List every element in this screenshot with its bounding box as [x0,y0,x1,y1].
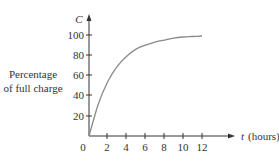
y-axis-arrow-icon [87,14,92,21]
y-tick-20: 20 [73,110,85,122]
x-tick-8: 8 [161,141,167,153]
y-tick-80: 80 [73,49,85,61]
y-tick-60: 60 [73,69,85,81]
charge-curve [89,36,202,136]
x-tick-6: 6 [142,141,148,153]
x-tick-4: 4 [123,141,129,153]
x-tick-2: 2 [104,141,110,153]
x-axis-var: t [241,130,245,142]
x-axis-unit: (hours) [248,130,279,143]
x-axis-arrow-icon [228,134,235,139]
y-axis-var: C [75,13,83,25]
x-tick-10: 10 [178,141,190,153]
chart: 100 80 60 40 20 0 2 4 6 8 10 12 C t (hou… [0,0,279,163]
x-tick-12: 12 [197,141,208,153]
origin-label: 0 [80,141,86,153]
y-tick-40: 40 [73,89,85,101]
y-tick-100: 100 [68,29,85,41]
